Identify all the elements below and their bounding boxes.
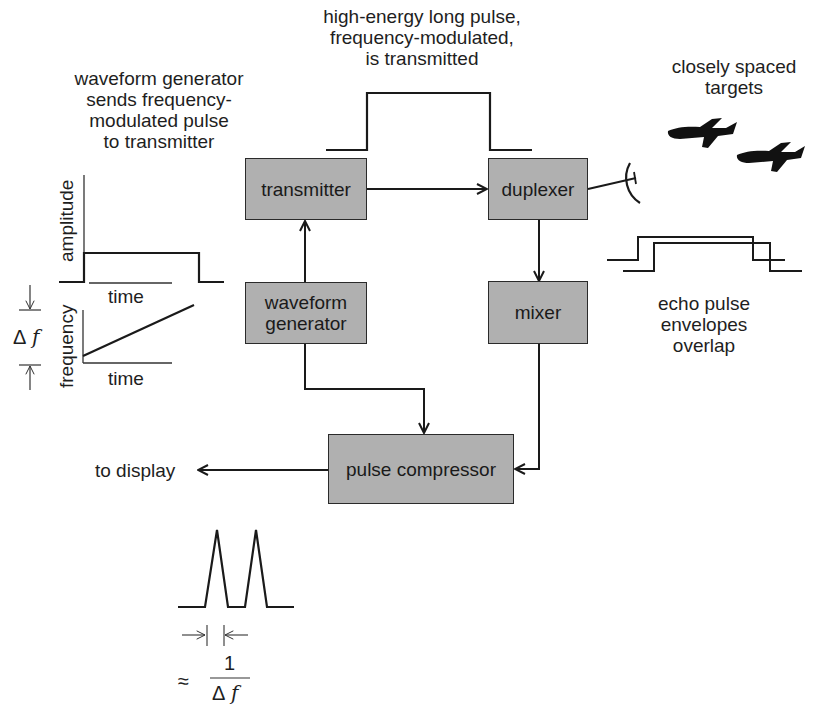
- amplitude-axis-label: amplitude: [56, 180, 78, 262]
- waveform-generator-note: waveform generator sends frequency- modu…: [66, 68, 252, 152]
- transmitter-block: transmitter: [245, 158, 367, 220]
- frequency-axis-label: frequency: [56, 305, 78, 388]
- to-display-label: to display: [95, 460, 175, 481]
- antenna-icon: [588, 163, 640, 203]
- transmitted-pulse-note: high-energy long pulse, frequency-modula…: [304, 6, 540, 69]
- delta-f-label: Δ f: [13, 325, 39, 349]
- waveform-generator-label-line1: waveform: [265, 292, 347, 313]
- pulse-compressor-block: pulse compressor: [328, 434, 514, 504]
- waveform-generator-label-line2: generator: [265, 313, 346, 334]
- amplitude-time-label: time: [108, 286, 144, 308]
- resolution-numerator: 1: [224, 652, 235, 675]
- resolution-denominator: Δ f: [212, 681, 238, 705]
- waveform-generator-block: waveform generator: [245, 282, 367, 344]
- duplexer-label: duplexer: [502, 179, 575, 200]
- mixer-block: mixer: [488, 281, 588, 344]
- arrow-generator-to-compressor: [305, 343, 424, 433]
- echo-pulse-envelopes: [607, 237, 802, 271]
- transmitted-pulse-waveform: [326, 93, 532, 150]
- approx-symbol: ≈: [178, 670, 189, 693]
- pulse-compressor-label: pulse compressor: [346, 459, 496, 480]
- duplexer-block: duplexer: [488, 158, 588, 220]
- frequency-time-label: time: [108, 368, 144, 390]
- arrow-mixer-to-compressor: [515, 343, 539, 469]
- airplane-icon: [737, 142, 805, 172]
- frequency-vs-time-plot: [19, 285, 194, 390]
- targets-note: closely spaced targets: [664, 56, 804, 98]
- airplane-icon: [668, 118, 737, 148]
- echo-pulse-note: echo pulse envelopes overlap: [644, 293, 764, 356]
- amplitude-vs-time-plot: [59, 175, 224, 283]
- mixer-label: mixer: [515, 302, 561, 323]
- compressed-output-pulses: [178, 530, 294, 678]
- transmitter-label: transmitter: [261, 179, 351, 200]
